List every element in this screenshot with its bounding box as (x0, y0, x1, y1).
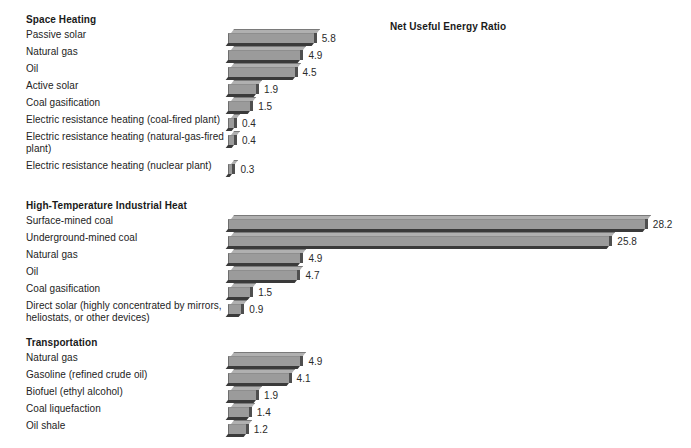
bar-shadow (226, 174, 233, 177)
bar-value-label: 1.5 (258, 101, 272, 112)
bar-value-label: 1.2 (254, 424, 268, 435)
row-label: Gasoline (refined crude oil) (26, 369, 226, 381)
bar-value-label: 4.1 (297, 373, 311, 384)
row-label: Coal liquefaction (26, 403, 226, 415)
row-label: Active solar (26, 80, 226, 92)
bar-side-face (609, 236, 612, 246)
bar-value-label: 4.9 (308, 356, 322, 367)
bar-front-face (228, 67, 295, 77)
bar-side-face (246, 424, 249, 434)
bar-front-face (228, 164, 232, 174)
net-useful-energy-ratio-chart: Net Useful Energy Ratio Space HeatingPas… (0, 0, 691, 448)
bar (228, 266, 301, 283)
chart-row: Electric resistance heating (natural-gas… (0, 131, 691, 148)
bar-front-face (228, 356, 300, 366)
bar-value-label: 0.4 (242, 118, 256, 129)
bar-front-face (228, 304, 241, 314)
chart-row: Biofuel (ethyl alcohol)1.9 (0, 386, 691, 403)
bar (228, 283, 254, 300)
bar-front-face (228, 33, 314, 43)
chart-row: Passive solar5.8 (0, 29, 691, 46)
bar (228, 80, 260, 97)
chart-row: Natural gas4.9 (0, 46, 691, 63)
group-title: Space Heating (26, 14, 96, 25)
bar-side-face (297, 270, 300, 280)
bar-side-face (256, 84, 259, 94)
bar-value-label: 5.8 (322, 33, 336, 44)
row-label: Natural gas (26, 249, 226, 261)
bar-front-face (228, 287, 250, 297)
row-label: Oil shale (26, 420, 226, 432)
chart-row: Natural gas4.9 (0, 249, 691, 266)
bar-value-label: 4.9 (308, 253, 322, 264)
bar-side-face (295, 67, 298, 77)
row-label: Natural gas (26, 46, 226, 58)
bar-value-label: 4.7 (305, 270, 319, 281)
chart-row: Oil4.7 (0, 266, 691, 283)
bar-shadow (226, 145, 234, 148)
bar (228, 386, 260, 403)
bar (228, 97, 254, 114)
bar-value-label: 0.4 (242, 135, 256, 146)
chart-row: Electric resistance heating (coal-fired … (0, 114, 691, 131)
bar-side-face (249, 407, 252, 417)
bar-front-face (228, 424, 246, 434)
bar-side-face (241, 304, 244, 314)
bar (228, 420, 250, 437)
chart-row: Gasoline (refined crude oil)4.1 (0, 369, 691, 386)
bar-front-face (228, 236, 609, 246)
chart-row: Natural gas4.9 (0, 352, 691, 369)
bar-front-face (228, 407, 249, 417)
bar-side-face (300, 253, 303, 263)
row-label: Electric resistance heating (coal-fired … (26, 114, 226, 126)
bar (228, 232, 613, 249)
bar-value-label: 1.9 (264, 84, 278, 95)
bar (228, 369, 293, 386)
chart-row: Coal gasification1.5 (0, 283, 691, 300)
chart-row: Direct solar (highly concentrated by mir… (0, 300, 691, 317)
bar-side-face (250, 101, 253, 111)
chart-row: Surface-mined coal28.2 (0, 215, 691, 232)
bar-side-face (300, 356, 303, 366)
bar (228, 46, 304, 63)
chart-row: Oil4.5 (0, 63, 691, 80)
bar (228, 249, 304, 266)
row-label: Surface-mined coal (26, 215, 226, 227)
bar-value-label: 1.5 (258, 287, 272, 298)
bar-front-face (228, 118, 234, 128)
bar-side-face (234, 135, 237, 145)
bar (228, 215, 649, 232)
bar-side-face (314, 33, 317, 43)
bar-value-label: 28.2 (653, 219, 673, 230)
bar-value-label: 0.9 (249, 304, 263, 315)
row-label: Oil (26, 266, 226, 278)
bar-value-label: 0.3 (240, 164, 254, 175)
bar-front-face (228, 84, 256, 94)
row-label: Electric resistance heating (nuclear pla… (26, 160, 226, 172)
bar (228, 29, 318, 46)
bar-front-face (228, 50, 300, 60)
chart-row: Underground-mined coal25.8 (0, 232, 691, 249)
bar-shadow (226, 434, 246, 437)
bar-front-face (228, 373, 289, 383)
bar (228, 160, 236, 177)
bar-side-face (234, 118, 237, 128)
row-label: Coal gasification (26, 283, 226, 295)
bar-front-face (228, 253, 300, 263)
bar-front-face (228, 219, 645, 229)
chart-row: Coal gasification1.5 (0, 97, 691, 114)
bar (228, 300, 245, 317)
bar-front-face (228, 270, 297, 280)
row-label: Direct solar (highly concentrated by mir… (26, 300, 226, 324)
bar (228, 403, 253, 420)
row-label: Biofuel (ethyl alcohol) (26, 386, 226, 398)
bar-value-label: 4.5 (303, 67, 317, 78)
group-title: High-Temperature Industrial Heat (26, 200, 187, 211)
bar-side-face (300, 50, 303, 60)
chart-row: Electric resistance heating (nuclear pla… (0, 160, 691, 177)
row-label: Oil (26, 63, 226, 75)
bar-value-label: 25.8 (617, 236, 637, 247)
row-label: Electric resistance heating (natural-gas… (26, 131, 226, 155)
row-label: Underground-mined coal (26, 232, 226, 244)
bar-value-label: 1.4 (257, 407, 271, 418)
